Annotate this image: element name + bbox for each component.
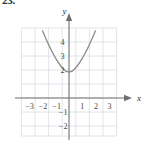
x-tick-label: −2 (39, 102, 48, 111)
y-axis-label: y (62, 6, 67, 16)
y-tick-label: −1 (59, 108, 68, 117)
y-tick-label: 4 (60, 38, 64, 47)
x-axis-label: x (136, 93, 141, 103)
y-tick-labels: 4 3 2 −1 −2 (59, 38, 68, 131)
y-tick-label: −2 (59, 122, 68, 131)
x-tick-labels: −3 −2 −1 1 2 3 (25, 102, 112, 111)
exercise-number-label: 23. (2, 0, 15, 5)
y-tick-label: 3 (60, 52, 64, 61)
y-tick-label: 2 (60, 66, 64, 75)
y-axis (66, 13, 72, 140)
x-tick-label: 3 (108, 102, 112, 111)
x-tick-label: 2 (94, 102, 98, 111)
coordinate-plane-plot: −3 −2 −1 1 2 3 4 3 2 −1 −2 x y (0, 0, 151, 153)
x-tick-label: −3 (25, 102, 34, 111)
x-tick-label: 1 (80, 102, 84, 111)
graph-figure: 23. (0, 0, 151, 153)
x-axis (15, 95, 132, 101)
